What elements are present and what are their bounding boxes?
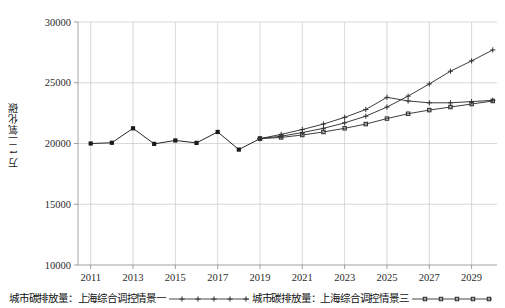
svg-text:2029: 2029 xyxy=(461,272,482,283)
svg-text:2017: 2017 xyxy=(207,272,228,283)
chart-legend: 城市碳排放量：上海综合调控情景一 城市碳排放量：上海综合调控情景三 xyxy=(0,286,505,308)
svg-text:2025: 2025 xyxy=(376,272,397,283)
svg-text:2019: 2019 xyxy=(249,272,270,283)
chart-figure: 万 t 二氧化碳 1000015000200002500030000201120… xyxy=(0,0,505,308)
legend-item-scenario-3: 城市碳排放量：上海综合调控情景三 xyxy=(252,290,495,305)
svg-text:2021: 2021 xyxy=(292,272,313,283)
svg-text:2015: 2015 xyxy=(165,272,186,283)
svg-text:2023: 2023 xyxy=(334,272,355,283)
svg-text:15000: 15000 xyxy=(45,199,71,210)
legend-label-scenario-3: 城市碳排放量：上海综合调控情景三 xyxy=(252,290,409,305)
svg-text:25000: 25000 xyxy=(45,77,71,88)
legend-swatch-scenario-1 xyxy=(168,291,250,303)
svg-text:30000: 30000 xyxy=(45,17,71,28)
svg-text:2013: 2013 xyxy=(123,272,144,283)
svg-text:2027: 2027 xyxy=(419,272,440,283)
line-chart-plot: 1000015000200002500030000201120132015201… xyxy=(0,0,505,288)
legend-item-scenario-1: 城市碳排放量：上海综合调控情景一 xyxy=(9,290,252,305)
svg-text:20000: 20000 xyxy=(45,138,71,149)
svg-text:10000: 10000 xyxy=(45,260,71,271)
legend-swatch-scenario-3 xyxy=(411,291,493,303)
legend-label-scenario-1: 城市碳排放量：上海综合调控情景一 xyxy=(9,290,166,305)
svg-text:2011: 2011 xyxy=(80,272,101,283)
